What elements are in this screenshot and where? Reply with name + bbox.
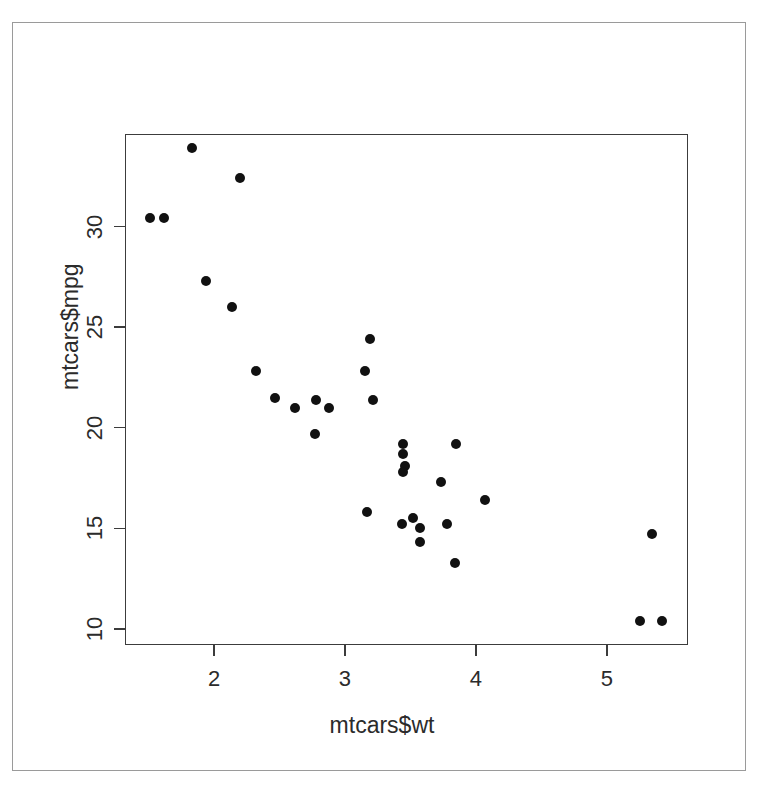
data-point [398,467,408,477]
y-axis-tick [114,427,125,428]
x-axis-tick-label: 5 [577,668,637,690]
data-point [415,523,425,533]
data-point [647,529,657,539]
data-point [436,477,446,487]
data-point [187,143,197,153]
data-point [480,495,490,505]
data-point [324,403,334,413]
data-point [368,395,378,405]
x-axis-tick-label: 2 [184,668,244,690]
data-point [235,173,245,183]
y-axis-tick [114,226,125,227]
x-axis-tick-label: 4 [446,668,506,690]
y-axis-tick [114,528,125,529]
data-point [635,616,645,626]
data-point [159,213,169,223]
data-point [365,334,375,344]
x-axis-tick [606,645,607,656]
data-point [310,429,320,439]
y-axis-tick-label: 30 [84,197,106,257]
x-axis-tick-label: 3 [315,668,375,690]
data-point [251,366,261,376]
y-axis-tick-label: 20 [84,398,106,458]
x-axis-label: mtcars$wt [0,712,764,739]
data-point [145,213,155,223]
data-point [397,519,407,529]
y-axis-tick [114,326,125,327]
data-point [360,366,370,376]
plot-page: 23451015202530 mtcars$wt mtcars$mpg [0,0,764,790]
data-point [270,393,280,403]
plot-area [125,134,688,645]
data-point [450,558,460,568]
data-point [657,616,667,626]
data-point [451,439,461,449]
data-point [398,439,408,449]
data-point [398,449,408,459]
y-axis-tick-label: 10 [84,599,106,659]
y-axis-tick-label: 15 [84,498,106,558]
x-axis-tick [213,645,214,656]
data-point [362,507,372,517]
x-axis-tick [344,645,345,656]
y-axis-label: mtcars$mpg [57,263,84,390]
y-axis-tick [114,628,125,629]
data-point [408,513,418,523]
data-point [227,302,237,312]
data-point [415,537,425,547]
x-axis-tick [475,645,476,656]
y-axis-tick-label: 25 [84,297,106,357]
data-point [290,403,300,413]
data-point [442,519,452,529]
data-point [311,395,321,405]
data-point [201,276,211,286]
